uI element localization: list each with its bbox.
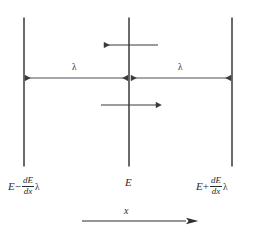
figure-canvas: E−dEdxλ E E+dEdxλ λ λ x: [0, 0, 259, 232]
plane-lines-group: [24, 18, 232, 166]
diagram-vector-layer: [0, 0, 259, 232]
